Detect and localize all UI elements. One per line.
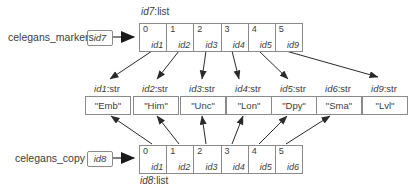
top-list-id7: 0 id1 1 id2 2 id3 3 id4 4 id5 5 id9 [139, 23, 303, 52]
cell-ref: id5 [260, 162, 272, 172]
string-box-id2: "Him" [133, 96, 179, 115]
cell-ref: id4 [233, 40, 245, 50]
top-list-cell-2: 2 id3 [194, 24, 221, 51]
top-list-cell-5: 5 id9 [276, 24, 302, 51]
arrow-id7-cell4-to-id5 [259, 51, 288, 79]
top-list-label-type: :list [154, 6, 169, 17]
string-value: "Lvl" [376, 100, 395, 111]
arrow-id8-cell5-to-id6 [286, 116, 330, 144]
string-label-id: id9 [371, 83, 384, 94]
string-label-id5: id5:str [271, 83, 315, 94]
cell-ref: id4 [233, 162, 245, 172]
cell-index: 5 [279, 24, 284, 34]
variable-ref-id7: id7 [94, 32, 107, 43]
variable-name-celegans-markers: celegans_markers [8, 31, 85, 43]
string-label-id9: id9:str [362, 83, 406, 94]
string-label-id2: id2:str [133, 83, 177, 94]
string-box-id6: "Sma" [316, 96, 362, 115]
cell-ref: id1 [151, 162, 163, 172]
cell-index: 4 [252, 24, 257, 34]
string-label-id: id6 [325, 83, 338, 94]
top-list-cell-0: 0 id1 [140, 24, 167, 51]
arrow-id8-cell1-to-id2 [157, 116, 179, 144]
cell-index: 3 [225, 146, 230, 156]
string-label-id1: id1:str [85, 83, 129, 94]
variable-ref-box-id7: id7 [87, 30, 113, 46]
arrow-id7-cell2-to-id3 [202, 51, 206, 79]
string-label-type: :str [384, 83, 397, 94]
arrow-id7-cell3-to-id4 [232, 51, 239, 79]
string-box-id4: "Lon" [226, 96, 272, 115]
memory-reference-diagram: celegans_markers id7 id7:list 0 id1 1 id… [0, 0, 409, 191]
top-list-label-id: id7 [141, 6, 154, 17]
string-label-type: :str [107, 83, 120, 94]
string-value: "Emb" [95, 100, 121, 111]
top-list-cell-4: 4 id5 [249, 24, 276, 51]
top-list-cell-1: 1 id2 [167, 24, 194, 51]
variable-ref-box-id8: id8 [87, 151, 113, 167]
string-box-id3: "Unc" [180, 96, 226, 115]
string-label-type: :str [202, 83, 215, 94]
arrow-id8-cell2-to-id3 [202, 116, 206, 144]
cell-ref: id2 [178, 162, 190, 172]
string-label-id4: id4:str [226, 83, 270, 94]
bottom-list-label: id8:list [140, 175, 168, 186]
bottom-list-cell-0: 0 id1 [140, 146, 167, 173]
bottom-list-cell-1: 1 id2 [167, 146, 194, 173]
bottom-list-id8: 0 id1 1 id2 2 id3 3 id4 4 id5 5 id6 [139, 145, 303, 174]
string-value: "Unc" [191, 100, 215, 111]
cell-index: 3 [225, 24, 230, 34]
string-label-id: id2 [142, 83, 155, 94]
string-label-id: id3 [189, 83, 202, 94]
cell-index: 5 [279, 146, 284, 156]
cell-ref: id6 [287, 162, 299, 172]
top-list-label: id7:list [141, 6, 169, 17]
arrow-id7-cell5-to-id9 [286, 51, 378, 77]
arrow-id8-cell4-to-id5 [259, 116, 287, 144]
top-list-cell-3: 3 id4 [222, 24, 249, 51]
string-label-id6: id6:str [316, 83, 360, 94]
cell-ref: id3 [206, 162, 218, 172]
string-label-type: :str [155, 83, 168, 94]
cell-ref: id9 [287, 40, 299, 50]
cell-index: 0 [143, 24, 148, 34]
arrow-id8-cell0-to-id1 [111, 116, 152, 144]
string-label-type: :str [338, 83, 351, 94]
cell-index: 2 [197, 146, 202, 156]
cell-ref: id2 [178, 40, 190, 50]
string-value: "Sma" [326, 100, 352, 111]
string-value: "Dpy" [282, 100, 306, 111]
bottom-list-label-id: id8 [140, 175, 153, 186]
variable-name-celegans-copy: celegans_copy [8, 152, 85, 164]
bottom-list-cell-5: 5 id6 [276, 146, 302, 173]
string-label-type: :str [293, 83, 306, 94]
string-label-id: id5 [280, 83, 293, 94]
string-label-type: :str [248, 83, 261, 94]
string-label-id: id1 [94, 83, 107, 94]
bottom-list-cell-3: 3 id4 [222, 146, 249, 173]
string-value: "Him" [144, 100, 168, 111]
string-box-id1: "Emb" [85, 96, 131, 115]
cell-index: 4 [252, 146, 257, 156]
cell-index: 1 [170, 24, 175, 34]
cell-ref: id3 [206, 40, 218, 50]
cell-index: 0 [143, 146, 148, 156]
arrow-id8-cell3-to-id4 [232, 116, 243, 144]
string-box-id9: "Lvl" [362, 96, 408, 115]
bottom-list-cell-2: 2 id3 [194, 146, 221, 173]
string-label-id3: id3:str [180, 83, 224, 94]
variable-ref-id8: id8 [94, 153, 107, 164]
bottom-list-label-type: :list [153, 175, 168, 186]
bottom-list-cell-4: 4 id5 [249, 146, 276, 173]
arrow-id7-cell1-to-id2 [157, 51, 179, 79]
cell-ref: id1 [151, 40, 163, 50]
string-box-id5: "Dpy" [271, 96, 317, 115]
cell-ref: id5 [260, 40, 272, 50]
string-value: "Lon" [238, 100, 261, 111]
arrow-id7-cell0-to-id1 [110, 51, 152, 79]
cell-index: 1 [170, 146, 175, 156]
cell-index: 2 [197, 24, 202, 34]
string-label-id: id4 [235, 83, 248, 94]
